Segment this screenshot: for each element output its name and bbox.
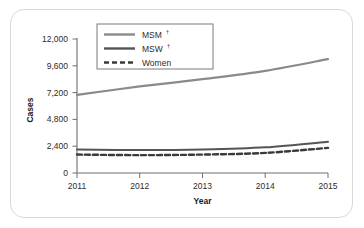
y-axis-ticks [73,39,78,173]
y-tick-label-12000: 12,000 [42,34,68,44]
x-tick-label-2013: 2013 [193,181,212,191]
series-line-msw [77,142,328,150]
x-tick-label-2011: 2011 [68,181,87,191]
chart-figure: 0 2,400 4,800 7,200 9,600 12,000 Cases 2… [0,0,364,228]
x-tick-label-2015: 2015 [319,181,338,191]
x-tick-label-2014: 2014 [256,181,275,191]
chart-card: 0 2,400 4,800 7,200 9,600 12,000 Cases 2… [10,9,353,218]
y-tick-label-7200: 7,200 [47,88,69,98]
legend-label-msm: MSM [142,30,162,40]
x-tick-label-2012: 2012 [130,181,149,191]
x-axis-ticks [77,173,328,178]
chart-legend: MSM † MSW † Women [97,24,213,69]
y-tick-label-0: 0 [63,168,68,178]
legend-superscript-msm: † [166,29,169,35]
legend-label-women: Women [142,58,171,68]
x-axis-title: Year [194,196,213,206]
legend-label-msw: MSW [142,44,163,54]
y-tick-label-9600: 9,600 [47,61,69,71]
y-tick-label-2400: 2,400 [47,141,69,151]
line-chart-plot: 0 2,400 4,800 7,200 9,600 12,000 Cases 2… [11,10,354,219]
legend-superscript-msw: † [167,43,170,49]
y-tick-label-4800: 4,800 [47,114,69,124]
data-series-group [77,59,328,155]
y-axis-title: Cases [25,97,35,122]
